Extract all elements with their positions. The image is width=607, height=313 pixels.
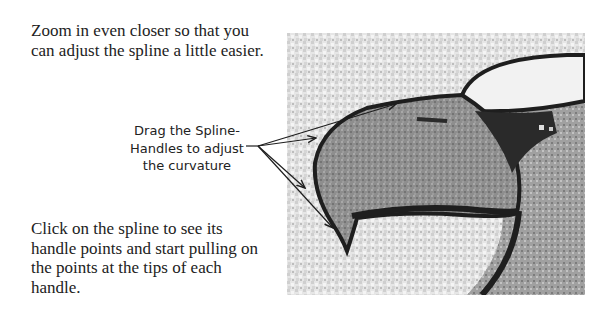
callout-line-2: Handles to adjust [122,140,252,158]
callout-line-1: Drag the Spline- [122,122,252,140]
callout-label: Drag the Spline- Handles to adjust the c… [122,122,252,175]
instruction-click-text: Click on the spline to see its handle po… [31,219,271,297]
eagle-beak-illustration [287,33,585,295]
instruction-zoom-text: Zoom in even closer so that you can adju… [31,21,271,60]
callout-line-3: the curvature [122,157,252,175]
eagle-beak-figure [287,33,585,295]
